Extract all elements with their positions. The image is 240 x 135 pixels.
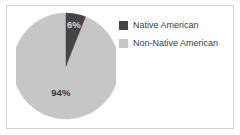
- legend-swatch-icon-native-american: [119, 21, 128, 30]
- legend-item-non-native-american[interactable]: Non-Native American: [119, 35, 231, 51]
- pie-chart: 6% 94%: [16, 12, 116, 120]
- legend-item-native-american[interactable]: Native American: [119, 17, 231, 33]
- pie-data-label-non-native-american: 94%: [51, 87, 71, 98]
- legend-label-non-native-american: Non-Native American: [133, 38, 218, 49]
- pie-data-label-native-american: 6%: [67, 19, 81, 30]
- legend-label-native-american: Native American: [133, 20, 199, 31]
- chart-legend: Native American Non-Native American: [119, 17, 231, 53]
- pie-chart-card: 6% 94% Native American Non-Native Americ…: [0, 0, 240, 135]
- legend-swatch-icon-non-native-american: [119, 39, 128, 48]
- plot-area: 6% 94% Native American Non-Native Americ…: [0, 0, 240, 135]
